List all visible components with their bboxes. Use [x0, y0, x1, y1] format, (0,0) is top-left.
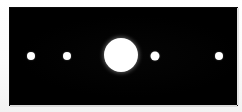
satellite-disc — [151, 52, 160, 61]
primary-body-disc — [104, 38, 138, 72]
plate-edge-right — [237, 8, 239, 105]
satellite-disc — [63, 52, 71, 60]
observation-plate — [10, 8, 237, 105]
image-viewer: Astronomical Observation Frame — [0, 0, 242, 112]
satellite-disc — [215, 52, 223, 60]
plate-edge-bottom — [10, 105, 237, 107]
satellite-disc — [27, 52, 35, 60]
